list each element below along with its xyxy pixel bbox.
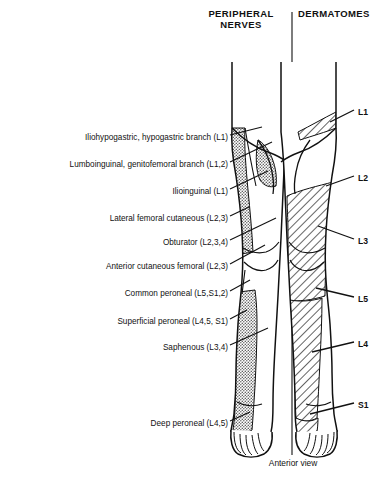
- nerve-label: Anterior cutaneous femoral (L2,3): [0, 262, 228, 272]
- header-peripheral-line2: NERVES: [220, 19, 261, 30]
- nerve-label: Lateral femoral cutaneous (L2,3): [0, 214, 228, 224]
- nerve-label: Superficial peroneal (L4,5, S1): [0, 317, 228, 327]
- nerve-label: Deep peroneal (L4,5): [0, 419, 228, 429]
- column-header-dermatomes: DERMATOMES: [298, 8, 384, 19]
- dermatome-label: L5: [358, 294, 368, 304]
- nerve-label: Iliohypogastric, hypogastric branch (L1): [0, 133, 228, 143]
- right-limb-figure: [281, 62, 337, 457]
- dermatome-label: L1: [358, 107, 368, 117]
- dermatome-label: S1: [358, 400, 369, 410]
- nerve-label: Lumboinguinal, genitofemoral branch (L1,…: [0, 160, 228, 170]
- dermatome-label: L3: [358, 236, 368, 246]
- nerve-label: Saphenous (L3,4): [0, 343, 228, 353]
- nerve-label: Ilioinguinal (L1): [0, 187, 228, 197]
- header-peripheral-line1: PERIPHERAL: [208, 8, 273, 19]
- nerve-label: Obturator (L2,3,4): [0, 238, 228, 248]
- diagram-page: PERIPHERAL NERVES DERMATOMES Iliohypogas…: [0, 0, 384, 477]
- column-header-peripheral-nerves: PERIPHERAL NERVES: [196, 8, 286, 30]
- nerve-label: Common peroneal (L5,S1,2): [0, 289, 228, 299]
- figure-caption: Anterior view: [238, 458, 348, 468]
- dermatome-label: L2: [358, 173, 368, 183]
- dermatome-label: L4: [358, 339, 368, 349]
